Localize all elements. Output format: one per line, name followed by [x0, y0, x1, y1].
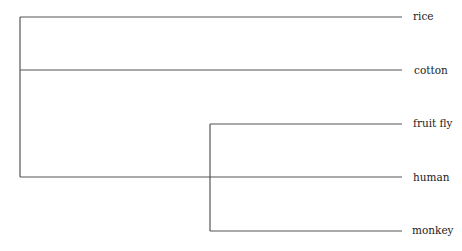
leaf-label-rice: rice	[413, 10, 433, 22]
leaf-label-monkey: monkey	[412, 224, 454, 236]
leaf-label-cotton: cotton	[414, 64, 448, 76]
tree-diagram	[0, 0, 462, 251]
leaf-label-human: human	[413, 171, 450, 183]
leaf-label-fruit-fly: fruit fly	[413, 117, 453, 129]
